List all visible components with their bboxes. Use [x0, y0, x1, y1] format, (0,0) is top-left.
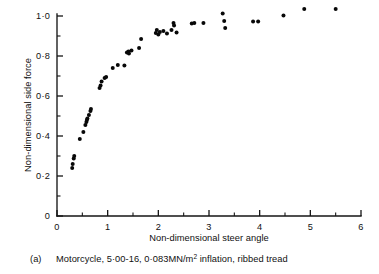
y-tick-label: 0 — [45, 211, 50, 221]
caption-text-after: inflation, ribbed tread — [197, 254, 288, 264]
data-point — [87, 113, 91, 117]
data-point — [85, 117, 89, 121]
x-tick-label: 4 — [257, 222, 262, 232]
data-point — [71, 162, 75, 166]
data-point — [222, 19, 226, 23]
y-tick-label: 0·4 — [36, 131, 50, 141]
data-point — [223, 26, 227, 30]
x-tick-label: 1 — [105, 222, 110, 232]
data-point — [221, 12, 225, 16]
data-point — [116, 63, 120, 67]
caption-label: (a) — [30, 254, 42, 264]
data-point — [89, 107, 93, 111]
scatter-plot: 00·20·40·60·81·0 0123456 Non-dimensional… — [0, 0, 379, 274]
data-point — [137, 46, 141, 50]
data-point — [100, 80, 104, 84]
data-point — [111, 66, 115, 70]
x-axis-tick-labels: 0123456 — [54, 222, 363, 232]
y-axis-title: Non-dimensional side force — [23, 58, 33, 172]
data-point — [175, 30, 179, 34]
data-point — [139, 37, 143, 41]
data-point — [99, 84, 103, 88]
data-point — [170, 28, 174, 32]
data-point — [72, 154, 76, 158]
caption-text-before: Motorcycle, 5·00-16, 0·083MN/m — [56, 254, 194, 264]
data-point — [161, 29, 165, 33]
caption-body: Motorcycle, 5·00-16, 0·083MN/m2 inflatio… — [56, 253, 288, 264]
data-point — [172, 24, 176, 28]
data-point — [127, 52, 131, 56]
x-tick-label: 0 — [54, 222, 59, 232]
y-tick-label: 1·0 — [36, 11, 50, 21]
x-tick-label: 2 — [156, 222, 161, 232]
figure-container: 00·20·40·60·81·0 0123456 Non-dimensional… — [0, 0, 379, 274]
x-axis-title: Non-dimensional steer angle — [149, 233, 269, 243]
data-point — [81, 130, 85, 134]
data-point — [192, 21, 196, 25]
data-points-layer — [70, 7, 337, 170]
data-point — [158, 30, 162, 34]
data-point — [122, 64, 126, 68]
data-point — [256, 20, 260, 24]
y-tick-label: 0·6 — [36, 91, 50, 101]
data-point — [165, 32, 169, 36]
y-tick-label: 0·2 — [36, 171, 50, 181]
x-tick-label: 5 — [308, 222, 313, 232]
data-point — [78, 137, 82, 141]
data-point — [70, 166, 74, 170]
x-tick-label: 6 — [358, 222, 363, 232]
y-axis-tick-labels: 00·20·40·60·81·0 — [36, 11, 50, 221]
x-axis-major-ticks — [57, 210, 361, 216]
data-point — [281, 14, 285, 18]
data-point — [129, 48, 133, 52]
data-point — [104, 75, 108, 79]
data-point — [334, 7, 338, 11]
x-tick-label: 3 — [206, 222, 211, 232]
y-tick-label: 0·8 — [36, 51, 50, 61]
data-point — [302, 7, 306, 11]
data-point — [251, 20, 255, 24]
data-point — [201, 21, 205, 25]
